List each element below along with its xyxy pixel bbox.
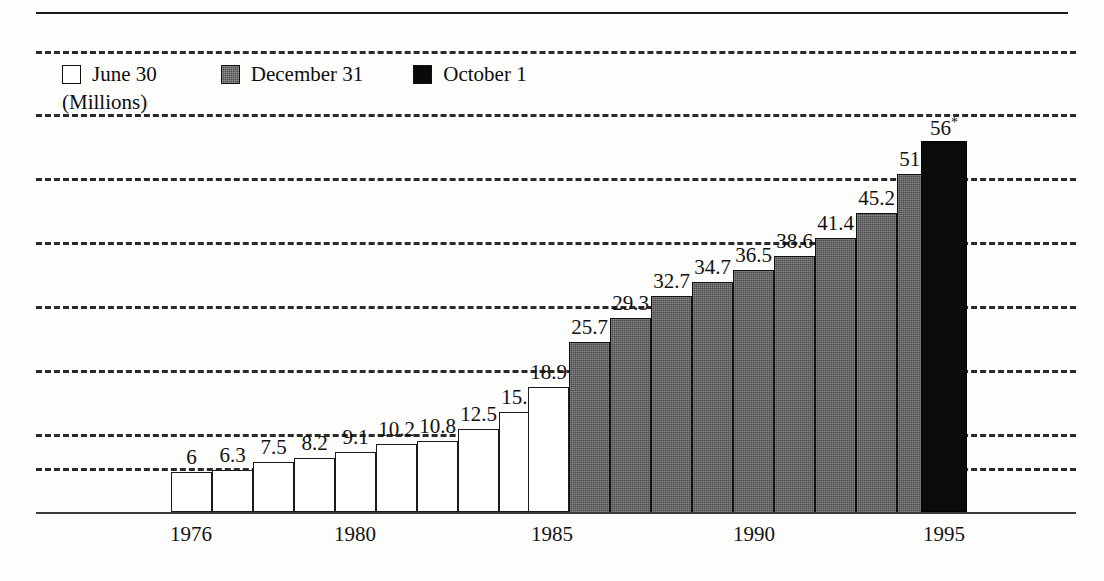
bar [528, 387, 569, 512]
bar [376, 444, 417, 512]
bar [815, 238, 856, 512]
bar-value-label: 6.3 [219, 445, 245, 466]
x-axis-tick-label: 1980 [334, 524, 376, 545]
bar [651, 296, 692, 512]
bar [692, 282, 733, 512]
footnote-asterisk: * [951, 115, 958, 130]
bar-value-label: 8.2 [301, 433, 327, 454]
x-axis-tick-label: 1985 [531, 524, 573, 545]
x-axis-tick-label: 1990 [733, 524, 775, 545]
bar [856, 213, 897, 512]
bar-value-label: 6 [186, 447, 197, 468]
bar [212, 470, 253, 512]
bar-value-label: 29.3 [612, 293, 649, 314]
bar [921, 141, 967, 512]
bar [610, 318, 651, 512]
bar-value-label: 7.5 [260, 437, 286, 458]
bar [569, 342, 610, 512]
bar [417, 441, 458, 512]
bar-value-label: 9.1 [342, 427, 368, 448]
plot-area: 66.37.58.29.110.210.812.515.118.925.729.… [0, 0, 1104, 581]
bar [253, 462, 294, 512]
bar-value-label: 32.7 [653, 271, 690, 292]
bar-value-label: 45.2 [858, 188, 895, 209]
bar-value-label: 36.5 [735, 245, 772, 266]
bar-value-label: 34.7 [694, 257, 731, 278]
bar [458, 429, 499, 512]
bar [171, 472, 212, 512]
chart-page: June 30 December 31 October 1 (Millions)… [0, 0, 1104, 581]
bar-value-label: 10.2 [378, 419, 415, 440]
bar [733, 270, 774, 512]
bar [335, 452, 376, 512]
x-axis-tick-label: 1976 [170, 524, 212, 545]
bar-value-label: 10.8 [419, 416, 456, 437]
bar-value-label: 56* [930, 116, 958, 139]
bar-value-label: 38.6 [776, 231, 813, 252]
bar-value-label: 12.5 [460, 404, 497, 425]
bar [774, 256, 815, 512]
bar [294, 458, 335, 512]
bar-value-label: 18.9 [530, 362, 567, 383]
bar-value-label: 41.4 [817, 213, 854, 234]
bar-value-label: 25.7 [571, 317, 608, 338]
x-axis-tick-label: 1995 [923, 524, 965, 545]
